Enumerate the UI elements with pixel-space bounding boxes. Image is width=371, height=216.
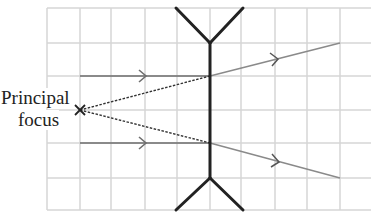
ray-diagram [0,0,371,216]
principal-focus-label-line1: Principal [1,88,70,108]
lens-bottom-left-arm [176,178,210,210]
lens-top-right-arm [210,8,243,43]
principal-focus-label-line2: focus [18,110,59,130]
lens-bottom-right-arm [210,178,243,210]
lens-top-left-arm [176,8,210,43]
